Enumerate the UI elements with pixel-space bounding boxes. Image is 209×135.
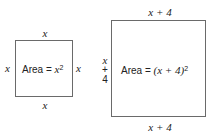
- large-square-area-label: Area = (x + 4)2: [121, 64, 188, 76]
- large-square-top-label: x + 4: [135, 7, 185, 17]
- area-prefix: Area =: [121, 65, 154, 76]
- large-square-bottom-label: x + 4: [135, 122, 185, 132]
- area-expression: (x + 4): [154, 64, 185, 76]
- small-square-top-label: x: [38, 28, 52, 38]
- area-exponent: 2: [184, 65, 188, 72]
- left-label-line-3: 4: [101, 75, 109, 85]
- small-square-bottom-label: x: [38, 100, 52, 110]
- small-square-right-label: x: [76, 63, 81, 73]
- area-prefix: Area =: [22, 64, 55, 75]
- small-square-left-label: x: [5, 63, 10, 73]
- large-square-left-label: x + 4: [101, 55, 109, 85]
- area-exponent: 2: [59, 64, 63, 71]
- small-square-area-label: Area = x2: [22, 63, 63, 75]
